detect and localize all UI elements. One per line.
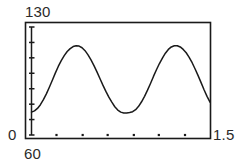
x-axis-tick (158, 134, 160, 136)
x-axis-ticks (55, 134, 186, 136)
x-axis-tick (55, 134, 57, 136)
x-axis-tick (184, 134, 186, 136)
data-series-line (32, 46, 211, 113)
x-axis-tick (107, 134, 109, 136)
plot-frame (26, 23, 211, 139)
plot-area (0, 0, 239, 164)
x-axis-tick (82, 134, 84, 136)
line-chart: 130 0 60 1.5 (0, 0, 239, 164)
x-axis-tick (133, 134, 135, 136)
